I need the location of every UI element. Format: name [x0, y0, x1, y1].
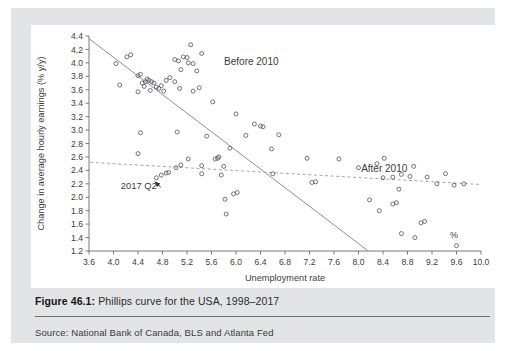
- x-tick-label: 10.0: [473, 257, 490, 267]
- y-tick-label: 2.2: [71, 179, 83, 189]
- data-point: [173, 80, 177, 84]
- x-tick-label: 4.4: [132, 257, 144, 267]
- x-tick-label: 6.0: [230, 257, 242, 267]
- data-point: [142, 84, 146, 88]
- data-point: [337, 157, 341, 161]
- y-tick-label: 3.8: [71, 71, 83, 81]
- data-point: [455, 244, 459, 248]
- y-tick-label: 4.4: [71, 31, 83, 41]
- data-point: [305, 156, 309, 160]
- data-point: [219, 173, 223, 177]
- y-tick-label: 1.8: [71, 206, 83, 216]
- x-tick-label: 8.8: [402, 257, 414, 267]
- data-point: [136, 90, 140, 94]
- y-tick-label: 2.6: [71, 152, 83, 162]
- trendline-before-2010: [89, 39, 368, 251]
- data-point: [200, 51, 204, 55]
- y-tick-label: 3.0: [71, 125, 83, 135]
- figure-block: 3.64.04.44.85.25.66.06.46.87.27.68.08.48…: [11, 8, 495, 343]
- x-tick-label: 8.0: [353, 257, 365, 267]
- x-tick-label: 7.2: [304, 257, 316, 267]
- data-point: [179, 163, 183, 167]
- figure-page: 3.64.04.44.85.25.66.06.46.87.27.68.08.48…: [0, 0, 506, 351]
- y-tick-label: 4.0: [71, 58, 83, 68]
- data-point: [357, 166, 361, 170]
- x-tick-label: 6.8: [279, 257, 291, 267]
- y-tick-label: 2.8: [71, 139, 83, 149]
- data-point: [118, 83, 122, 87]
- after-2010-label: After 2010: [361, 163, 408, 174]
- x-tick-label: 5.2: [181, 257, 193, 267]
- data-point: [223, 197, 227, 201]
- x-tick-label: 3.6: [83, 257, 95, 267]
- x-axis-title: Unemployment rate: [245, 273, 325, 283]
- data-point: [234, 112, 238, 116]
- data-point: [397, 187, 401, 191]
- y-tick-label: 2.0: [71, 192, 83, 202]
- data-point: [176, 59, 180, 63]
- data-point: [167, 170, 171, 174]
- data-point: [261, 125, 265, 129]
- phillips-curve-plot: 3.64.04.44.85.25.66.06.46.87.27.68.08.48…: [31, 25, 497, 288]
- data-point: [271, 172, 275, 176]
- chart-card: 3.64.04.44.85.25.66.06.46.87.27.68.08.48…: [31, 25, 497, 288]
- caption-band: Figure 46.1: Phillips curve for the USA,…: [31, 291, 497, 348]
- data-point: [186, 157, 190, 161]
- y-tick-label: 1.4: [71, 233, 83, 243]
- figure-number: Figure 46.1:: [35, 295, 95, 307]
- data-point: [382, 156, 386, 160]
- data-point: [197, 86, 201, 90]
- data-point: [224, 212, 228, 216]
- point-callout: 2017 Q2: [121, 180, 157, 191]
- x-tick-label: 4.8: [157, 257, 169, 267]
- data-point: [168, 76, 172, 80]
- data-point: [408, 174, 412, 178]
- data-point: [368, 198, 372, 202]
- data-point: [391, 175, 395, 179]
- data-point: [162, 89, 166, 93]
- figure-source: Source: National Bank of Canada, BLS and…: [35, 327, 274, 338]
- data-point: [228, 146, 232, 150]
- data-point: [213, 157, 217, 161]
- data-point: [174, 166, 178, 170]
- data-point: [159, 84, 163, 88]
- data-point: [244, 133, 248, 137]
- x-tick-label: 9.6: [451, 257, 463, 267]
- data-point: [412, 164, 416, 168]
- data-point: [423, 219, 427, 223]
- figure-caption-text: Phillips curve for the USA, 1998–2017: [95, 295, 279, 307]
- data-point: [138, 131, 142, 135]
- data-point: [129, 53, 133, 57]
- x-tick-label: 5.6: [206, 257, 218, 267]
- data-point: [425, 175, 429, 179]
- data-point: [235, 191, 239, 195]
- x-tick-label: 6.4: [255, 257, 267, 267]
- data-point: [148, 88, 152, 92]
- data-point: [394, 201, 398, 205]
- data-point: [277, 133, 281, 137]
- data-point: [191, 62, 195, 66]
- x-tick-label: 9.2: [426, 257, 438, 267]
- data-point: [195, 69, 199, 73]
- caption-divider: [35, 316, 490, 317]
- data-point: [191, 89, 195, 93]
- y-tick-label: 2.4: [71, 165, 83, 175]
- data-point: [175, 130, 179, 134]
- data-point: [189, 43, 193, 47]
- data-point: [200, 164, 204, 168]
- data-point: [222, 164, 226, 168]
- data-point: [114, 62, 118, 66]
- percent-unit-label: %: [450, 230, 458, 240]
- data-point: [399, 232, 403, 236]
- data-point: [179, 68, 183, 72]
- x-tick-label: 4.0: [108, 257, 120, 267]
- y-tick-label: 4.2: [71, 45, 83, 55]
- data-point: [178, 86, 182, 90]
- data-point: [252, 122, 256, 126]
- data-point: [159, 173, 163, 177]
- data-point: [186, 61, 190, 65]
- data-point: [211, 100, 215, 104]
- data-point: [136, 152, 140, 156]
- data-point: [452, 183, 456, 187]
- data-point: [270, 147, 274, 151]
